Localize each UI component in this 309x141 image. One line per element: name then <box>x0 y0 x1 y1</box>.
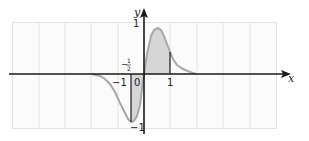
x-axis-label: x <box>288 72 295 85</box>
x-tick-pos1: 1 <box>167 77 173 88</box>
y-tick-pos1: 1 <box>133 18 139 29</box>
svg-text:2: 2 <box>127 65 131 72</box>
function-graph: x y 1 −1 −1 0 1 − 1 2 <box>0 0 309 141</box>
svg-text:1: 1 <box>127 57 131 64</box>
y-tick-neg1: −1 <box>130 122 145 133</box>
x-tick-neg1: −1 <box>112 77 127 88</box>
x-tick-zero: 0 <box>134 77 140 88</box>
